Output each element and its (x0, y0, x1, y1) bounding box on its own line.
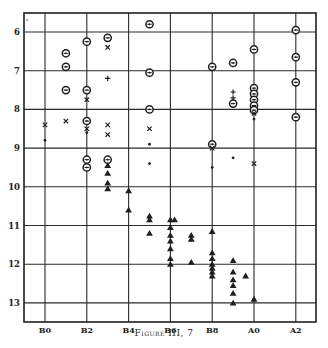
triangle-marker (188, 259, 195, 265)
circle-cross-marker (83, 117, 90, 124)
y-tick-label: 8 (14, 104, 20, 114)
x-mark-marker (64, 119, 68, 123)
y-tick-label: 6 (14, 27, 20, 37)
circle-cross-marker (209, 141, 216, 148)
scatter-chart: 678910111213 B0B2B4B6B8A0A2 (0, 0, 328, 348)
triangle-marker (230, 290, 237, 296)
x-mark-marker (106, 123, 110, 127)
triangle-marker (230, 282, 237, 288)
triangle-marker (104, 170, 111, 176)
circle-cross-marker (292, 79, 299, 86)
y-tick-label: 11 (8, 221, 20, 231)
circle-cross-marker (104, 34, 111, 41)
dot-marker (148, 162, 151, 165)
triangle-marker (251, 296, 258, 302)
dot-marker (232, 156, 235, 159)
triangle-marker (167, 238, 174, 244)
circle-cross-marker (292, 54, 299, 61)
y-tick-label: 12 (8, 259, 20, 269)
y-tick-label: 13 (8, 298, 20, 308)
figure-caption: Figure III, 7 (0, 328, 328, 338)
dot-marker (44, 139, 47, 142)
circle-cross-marker (146, 69, 153, 76)
circle-cross-marker (83, 38, 90, 45)
x-mark-marker (106, 45, 110, 49)
dot-marker (148, 143, 151, 146)
chart-grid (24, 13, 316, 322)
circle-cross-marker (83, 164, 90, 171)
triangle-marker (125, 187, 132, 193)
circle-cross-marker (62, 50, 69, 57)
plus-marker (105, 76, 110, 81)
y-tick-label: 9 (14, 143, 20, 153)
triangle-marker (230, 276, 237, 282)
circle-cross-marker (230, 100, 237, 107)
dot-marker (253, 118, 256, 121)
circle-cross-marker (292, 114, 299, 121)
dot-marker (85, 131, 88, 134)
triangle-marker (209, 255, 216, 261)
circle-cross-marker (209, 63, 216, 70)
triangle-marker (209, 228, 216, 234)
dot-marker (211, 166, 214, 169)
circle-cross-marker (104, 156, 111, 163)
circle-cross-marker (250, 46, 257, 53)
triangle-marker (230, 269, 237, 275)
circle-cross-marker (146, 106, 153, 113)
triangle-marker (242, 273, 249, 279)
stray-dot-mark (26, 19, 28, 21)
triangle-marker (146, 230, 153, 236)
circle-cross-marker (230, 59, 237, 66)
triangle-marker (230, 257, 237, 263)
x-mark-marker (106, 132, 110, 136)
circle-cross-marker (83, 86, 90, 93)
circle-cross-marker (83, 156, 90, 163)
plus-marker (231, 89, 236, 94)
circle-cross-marker (292, 26, 299, 33)
y-axis-ticks: 678910111213 (8, 27, 20, 308)
triangle-marker (167, 232, 174, 238)
plus-marker (231, 95, 236, 100)
x-mark-marker (147, 127, 151, 131)
data-points (43, 21, 300, 306)
y-tick-label: 10 (8, 182, 20, 192)
triangle-marker (209, 249, 216, 255)
triangle-marker (167, 255, 174, 261)
triangle-marker (167, 246, 174, 252)
triangle-marker (125, 207, 132, 213)
triangle-marker (171, 216, 178, 222)
circle-cross-marker (62, 63, 69, 70)
circle-cross-marker (62, 86, 69, 93)
triangle-marker (104, 180, 111, 186)
circle-cross-marker (146, 21, 153, 28)
y-tick-label: 7 (14, 66, 20, 76)
